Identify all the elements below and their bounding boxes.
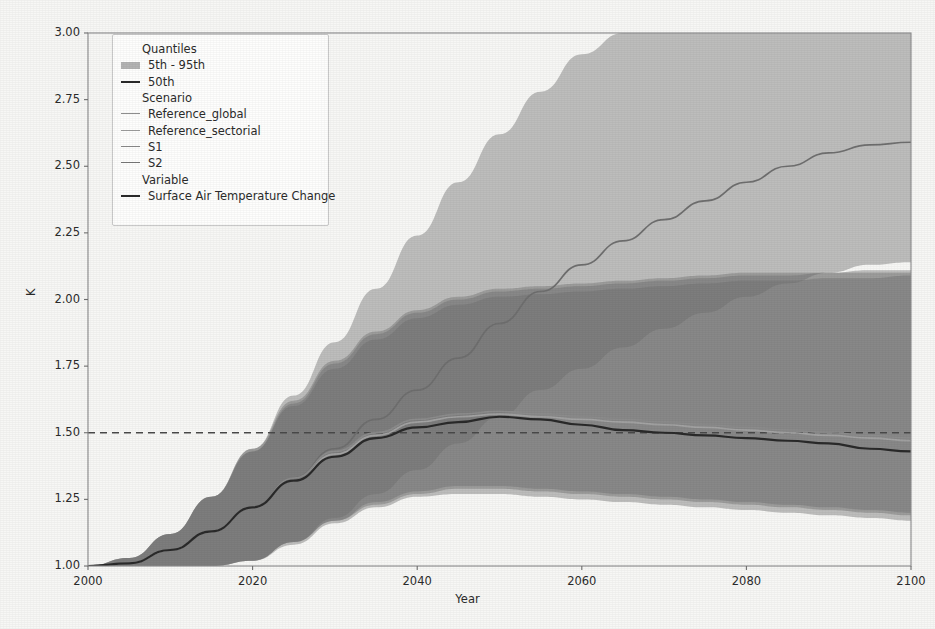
- legend-item-label: 5th - 95th: [142, 58, 205, 72]
- y-tick-label: 1.25: [26, 491, 80, 505]
- x-tick-label: 2060: [552, 574, 612, 588]
- y-tick-label: 2.75: [26, 92, 80, 106]
- legend-item[interactable]: Reference_sectorial: [120, 122, 320, 138]
- x-tick-label: 2100: [881, 574, 935, 588]
- legend-item-label: Reference_sectorial: [142, 124, 261, 138]
- legend-item[interactable]: Reference_global: [120, 106, 320, 122]
- legend-item-label: 50th: [142, 75, 174, 89]
- legend-swatch-icon: [120, 125, 142, 137]
- legend-group-title-text: Variable: [120, 173, 189, 187]
- y-tick-label: 2.25: [26, 225, 80, 239]
- legend-item[interactable]: 50th: [120, 74, 320, 90]
- y-tick-label: 1.75: [26, 358, 80, 372]
- legend-swatch-icon: [120, 141, 142, 153]
- y-tick-label: 2.50: [26, 158, 80, 172]
- legend-item-label: S1: [142, 140, 163, 154]
- legend-group-title: Variable: [120, 171, 320, 187]
- chart-legend[interactable]: Quantiles5th - 95th50thScenarioReference…: [112, 34, 329, 226]
- x-tick-label: 2020: [223, 574, 283, 588]
- legend-group-title-text: Quantiles: [120, 42, 197, 56]
- legend-group-title-text: Scenario: [120, 91, 192, 105]
- quantile-band-S2: [88, 276, 911, 566]
- y-tick-label: 1.50: [26, 425, 80, 439]
- legend-item-label: Surface Air Temperature Change: [142, 189, 335, 203]
- legend-swatch-icon: [120, 157, 142, 169]
- legend-group-title: Scenario: [120, 90, 320, 106]
- legend-item[interactable]: Surface Air Temperature Change: [120, 188, 320, 204]
- x-tick-label: 2000: [58, 574, 118, 588]
- figure: K Year 1.001.251.501.752.002.252.502.753…: [0, 0, 935, 629]
- legend-swatch-icon: [120, 108, 142, 120]
- legend-item[interactable]: 5th - 95th: [120, 57, 320, 73]
- x-axis-label: Year: [0, 592, 935, 606]
- y-tick-label: 2.00: [26, 292, 80, 306]
- legend-swatch-icon: [120, 190, 142, 202]
- legend-group-title: Quantiles: [120, 41, 320, 57]
- legend-item-label: Reference_global: [142, 107, 247, 121]
- legend-swatch-icon: [120, 76, 142, 88]
- x-tick-label: 2040: [387, 574, 447, 588]
- legend-swatch-icon: [120, 59, 142, 71]
- x-tick-label: 2080: [716, 574, 776, 588]
- y-tick-label: 1.00: [26, 558, 80, 572]
- y-tick-label: 3.00: [26, 25, 80, 39]
- legend-item[interactable]: S2: [120, 155, 320, 171]
- legend-item-label: S2: [142, 156, 163, 170]
- legend-item[interactable]: S1: [120, 139, 320, 155]
